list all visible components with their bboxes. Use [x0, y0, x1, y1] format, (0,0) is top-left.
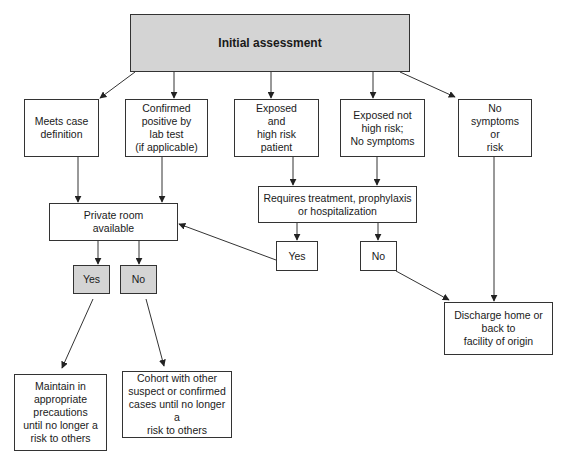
discharge-home-node: Discharge home or back to facility of or…	[444, 302, 553, 355]
treatment-no-node: No	[360, 241, 397, 271]
confirmed-positive-node: Confirmed positive by lab test (if appli…	[125, 99, 208, 157]
edge-initial-to-no-symptoms	[400, 72, 455, 97]
exposed-high-risk-node: Exposed and high risk patient	[234, 99, 319, 157]
cohort-node: Cohort with other suspect or confirmed c…	[122, 371, 232, 438]
edge-treatment-yes-to-private-room	[179, 224, 276, 260]
private-room-yes-node: Yes	[73, 265, 110, 294]
flowchart-canvas: Initial assessment Meets case definition…	[0, 0, 569, 469]
no-symptoms-or-risk-node: No symptoms or risk	[458, 99, 532, 157]
requires-treatment-node: Requires treatment, prophylaxis or hospi…	[258, 186, 417, 223]
meets-case-definition-node: Meets case definition	[24, 99, 99, 157]
exposed-not-high-risk-node: Exposed not high risk; No symptoms	[340, 99, 425, 157]
treatment-yes-node: Yes	[276, 241, 318, 271]
private-room-no-node: No	[120, 265, 157, 294]
edge-private-no-to-cohort	[146, 299, 164, 366]
initial-assessment-node: Initial assessment	[130, 14, 410, 72]
maintain-precautions-node: Maintain in appropriate precautions unti…	[14, 374, 107, 451]
edge-treatment-no-to-discharge	[396, 271, 449, 300]
edge-initial-to-meets-case	[100, 72, 135, 98]
edge-private-yes-to-maintain	[62, 299, 93, 368]
private-room-available-node: Private room available	[49, 203, 178, 241]
